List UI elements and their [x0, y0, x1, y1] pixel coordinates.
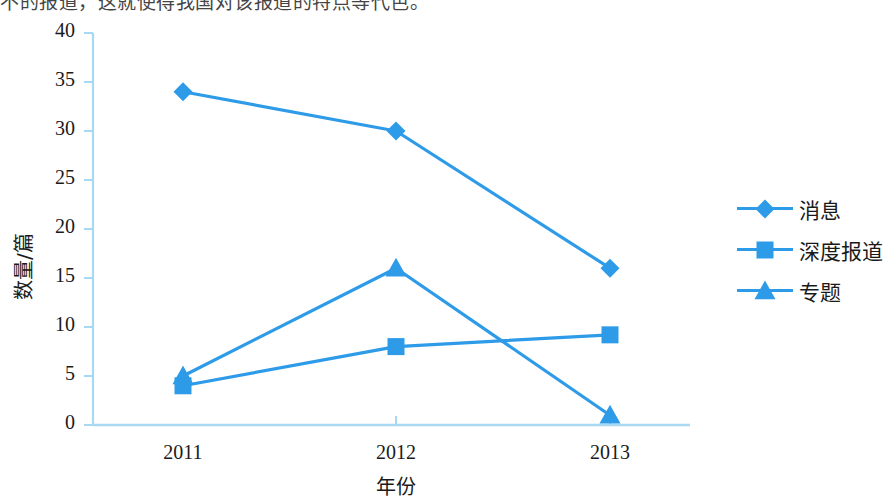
triangle-icon: [737, 281, 793, 301]
y-tick-label: 35: [13, 68, 75, 91]
y-axis-title: 数量/篇: [8, 233, 37, 300]
square-marker: [757, 241, 774, 258]
legend-label: 专题: [793, 276, 841, 306]
chart-series-layer: [173, 82, 621, 423]
x-tick-label: 2012: [336, 441, 456, 464]
square-icon: [737, 240, 793, 260]
legend-item-3[interactable]: 专题: [737, 270, 887, 311]
triangle-marker: [755, 280, 776, 299]
legend-item-2[interactable]: 深度报道: [737, 229, 887, 270]
x-axis-ticks: [396, 416, 610, 425]
y-axis-ticks: [84, 33, 93, 425]
triangle-marker: [386, 258, 407, 277]
chart-legend: 消息深度报道专题: [737, 188, 887, 311]
x-tick-label: 2011: [123, 441, 243, 464]
y-tick-label: 40: [13, 19, 75, 42]
x-axis-title: 年份: [316, 471, 476, 500]
diamond-marker: [756, 199, 775, 218]
triangle-marker: [173, 366, 194, 385]
x-tick-label: 2013: [550, 441, 670, 464]
triangle-marker: [600, 405, 621, 424]
diamond-marker: [387, 122, 406, 141]
series-line: [183, 92, 610, 268]
square-marker: [388, 338, 405, 355]
y-tick-label: 10: [13, 313, 75, 336]
series-square: [175, 326, 619, 394]
legend-label: 深度报道: [793, 235, 883, 265]
diamond-marker: [174, 82, 193, 101]
y-tick-label: 30: [13, 117, 75, 140]
y-tick-label: 25: [13, 166, 75, 189]
legend-item-1[interactable]: 消息: [737, 188, 887, 229]
y-tick-label: 0: [13, 411, 75, 434]
series-diamond: [174, 82, 620, 277]
diamond-icon: [737, 199, 793, 219]
y-tick-label: 5: [13, 362, 75, 385]
diamond-marker: [601, 259, 620, 278]
legend-label: 消息: [793, 194, 841, 224]
square-marker: [602, 326, 619, 343]
